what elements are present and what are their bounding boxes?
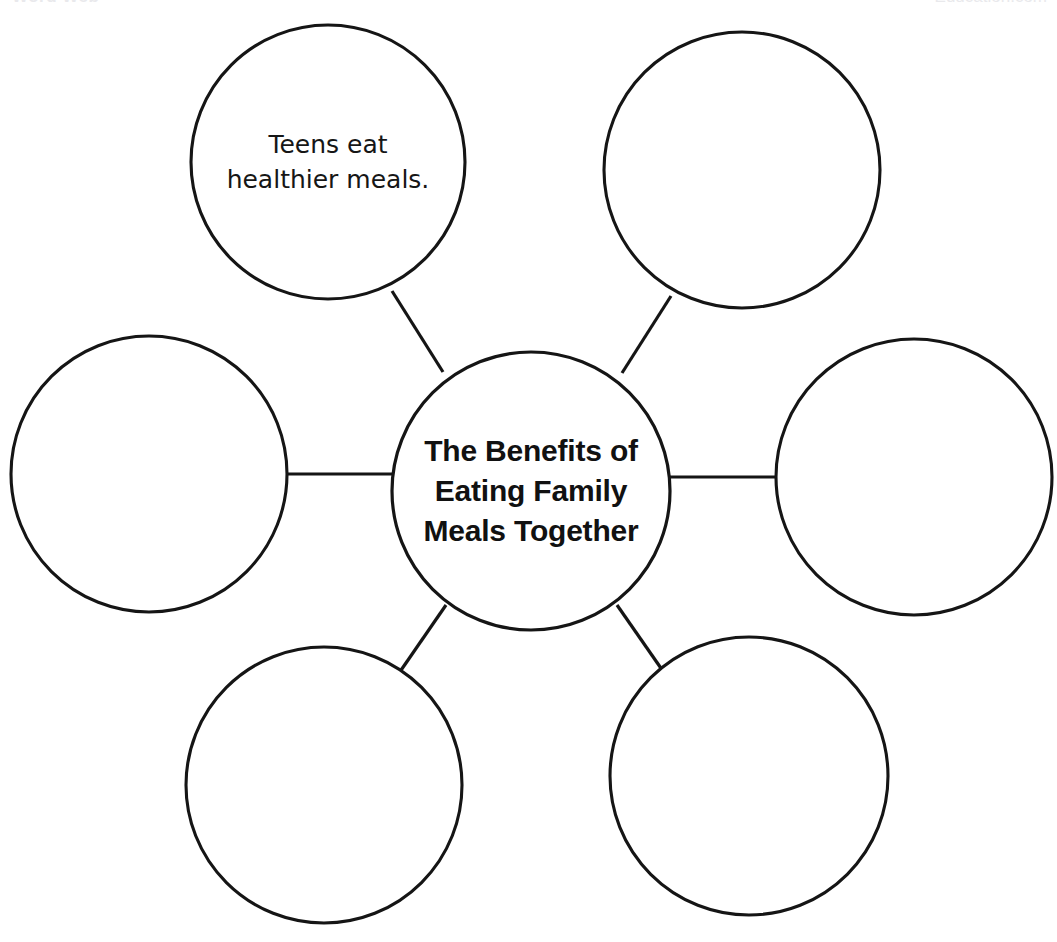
node-top-left-text: Teens eat healthier meals.: [222, 59, 434, 265]
word-web-worksheet: Word Web Education.com Teens eat healthi…: [0, 0, 1057, 942]
center-topic-text: The Benefits of Eating Family Meals Toge…: [411, 387, 650, 596]
labels-layer: Teens eat healthier meals.The Benefits o…: [0, 0, 1057, 942]
